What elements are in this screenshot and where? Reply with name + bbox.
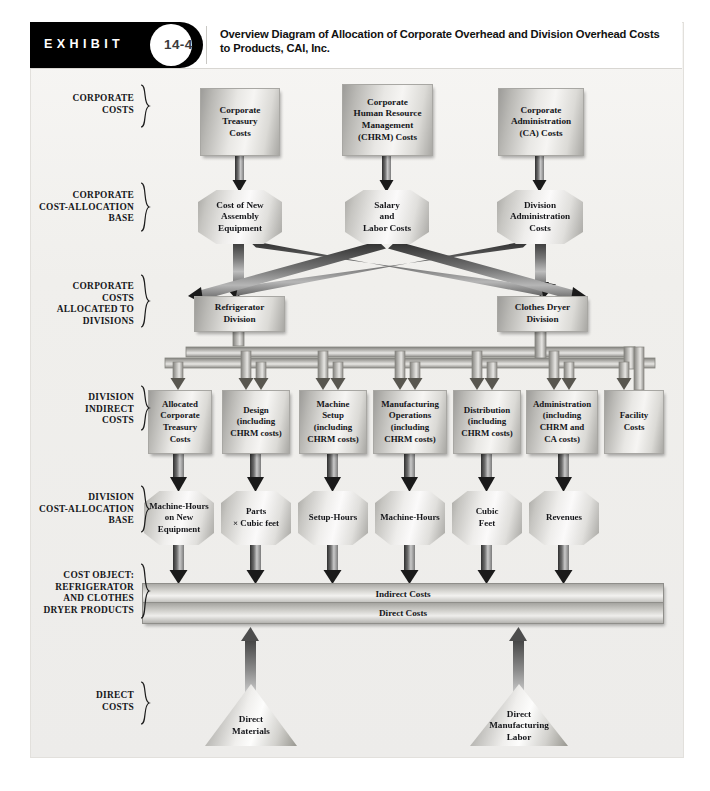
- node-facility-costs[interactable]: Facility Costs: [604, 390, 664, 454]
- node-label: Distribution (including CHRM costs): [458, 405, 516, 440]
- row-label-text: DIVISION INDIRECT COSTS: [85, 392, 134, 425]
- node-machine-hours[interactable]: Machine-Hours: [375, 491, 445, 545]
- row-label-cost-object: COST OBJECT: REFRIGERATOR AND CLOTHES DR…: [30, 570, 134, 616]
- node-label: Refrigerator Division: [212, 302, 267, 325]
- node-label: Machine-Hours: [378, 512, 442, 524]
- node-label: Revenues: [544, 512, 584, 524]
- node-label: Corporate Administration (CA) Costs: [508, 105, 574, 140]
- node-label: Manufacturing Operations (including CHRM…: [378, 399, 442, 445]
- exhibit-header: EXHIBIT 14-4 Overview Diagram of Allocat…: [30, 22, 682, 68]
- bar-label: Direct Costs: [379, 608, 427, 618]
- bar-label: Indirect Costs: [375, 589, 430, 599]
- page-title: Overview Diagram of Allocation of Corpor…: [220, 27, 670, 56]
- node-parts-x-cubic-feet[interactable]: Parts × Cubic feet: [221, 491, 291, 545]
- row-label-text: CORPORATE COSTS: [73, 93, 134, 115]
- node-machine-hours-on-new-equipment[interactable]: Machine-Hours on New Equipment: [144, 491, 214, 545]
- bar-indirect-costs[interactable]: Indirect Costs: [142, 583, 664, 604]
- node-label: Division Administration Costs: [508, 200, 572, 235]
- brace-glyph: [139, 563, 151, 619]
- node-label: Design (including CHRM costs): [227, 405, 285, 440]
- brace-glyph: [139, 485, 151, 533]
- brace-corporate-costs: [139, 84, 151, 135]
- node-label: Facility Costs: [617, 410, 652, 433]
- brace-glyph: [139, 681, 151, 725]
- row-label-corporate-cost-allocation-base: CORPORATE COST-ALLOCATION BASE: [30, 190, 134, 225]
- brace-glyph: [139, 84, 151, 128]
- node-corporate-treasury-costs[interactable]: Corporate Treasury Costs: [200, 88, 280, 156]
- node-allocated-corporate-treasury-costs[interactable]: Allocated Corporate Treasury Costs: [148, 390, 212, 454]
- row-label-division-cost-allocation-base: DIVISION COST-ALLOCATION BASE: [30, 492, 134, 527]
- node-design[interactable]: Design (including CHRM costs): [222, 390, 290, 454]
- node-label: Corporate Treasury Costs: [217, 105, 264, 140]
- node-revenues[interactable]: Revenues: [529, 491, 599, 545]
- node-division-administration-costs[interactable]: Division Administration Costs: [497, 190, 583, 244]
- row-label-corporate-costs-allocated: CORPORATE COSTS ALLOCATED TO DIVISIONS: [30, 281, 134, 327]
- node-label: Allocated Corporate Treasury Costs: [157, 399, 202, 445]
- node-label: Machine-Hours on New Equipment: [147, 501, 211, 536]
- exhibit-page: EXHIBIT 14-4 Overview Diagram of Allocat…: [0, 0, 710, 791]
- brace-glyph: [139, 182, 151, 232]
- node-administration[interactable]: Administration (including CHRM and CA co…: [526, 390, 598, 454]
- node-label: Cost of New Assembly Equipment: [214, 200, 265, 235]
- row-label-corporate-costs: CORPORATE COSTS: [42, 93, 134, 116]
- node-label: Machine Setup (including CHRM costs): [304, 399, 362, 445]
- node-salary-and-labor-costs[interactable]: Salary and Labor Costs: [345, 190, 429, 244]
- node-label: Cubic Feet: [474, 506, 501, 529]
- brace-cost-object: [139, 563, 151, 623]
- node-label: Parts × Cubic feet: [231, 506, 281, 529]
- brace-division-indirect-costs: [139, 385, 151, 435]
- node-label: Corporate Human Resource Management (CHR…: [351, 97, 425, 143]
- brace-glyph: [139, 385, 151, 431]
- brace-glyph: [139, 274, 151, 328]
- row-label-text: CORPORATE COST-ALLOCATION BASE: [39, 190, 134, 223]
- exhibit-number: 14-4: [164, 37, 193, 52]
- node-cost-of-new-assembly-equipment[interactable]: Cost of New Assembly Equipment: [198, 190, 282, 244]
- node-label: Administration (including CHRM and CA co…: [530, 399, 594, 445]
- node-corporate-chrm-costs[interactable]: Corporate Human Resource Management (CHR…: [342, 84, 433, 156]
- brace-corporate-costs-allocated: [139, 274, 151, 332]
- row-label-direct-costs: DIRECT COSTS: [42, 690, 134, 713]
- node-machine-setup[interactable]: Machine Setup (including CHRM costs): [299, 390, 367, 454]
- brace-division-cost-allocation-base: [139, 485, 151, 537]
- header-divider: [206, 26, 207, 64]
- node-label: Salary and Labor Costs: [361, 200, 413, 235]
- row-label-text: COST OBJECT: REFRIGERATOR AND CLOTHES DR…: [44, 570, 134, 615]
- brace-direct-costs: [139, 681, 151, 729]
- node-label: Setup-Hours: [307, 512, 359, 524]
- exhibit-label: EXHIBIT: [44, 37, 124, 51]
- row-label-text: DIVISION COST-ALLOCATION BASE: [39, 492, 134, 525]
- node-manufacturing-operations[interactable]: Manufacturing Operations (including CHRM…: [373, 390, 447, 454]
- row-label-division-indirect-costs: DIVISION INDIRECT COSTS: [42, 392, 134, 427]
- node-setup-hours[interactable]: Setup-Hours: [298, 491, 368, 545]
- bar-direct-costs[interactable]: Direct Costs: [142, 602, 664, 624]
- node-distribution[interactable]: Distribution (including CHRM costs): [453, 390, 521, 454]
- node-clothes-dryer-division[interactable]: Clothes Dryer Division: [497, 296, 588, 332]
- header-underline: [30, 68, 682, 69]
- row-label-text: DIRECT COSTS: [96, 690, 134, 712]
- brace-corporate-cost-allocation-base: [139, 182, 151, 236]
- node-refrigerator-division[interactable]: Refrigerator Division: [194, 296, 285, 332]
- node-cubic-feet[interactable]: Cubic Feet: [452, 491, 522, 545]
- node-label: Clothes Dryer Division: [512, 302, 573, 325]
- row-label-text: CORPORATE COSTS ALLOCATED TO DIVISIONS: [57, 281, 134, 326]
- node-corporate-administration-costs[interactable]: Corporate Administration (CA) Costs: [498, 88, 584, 156]
